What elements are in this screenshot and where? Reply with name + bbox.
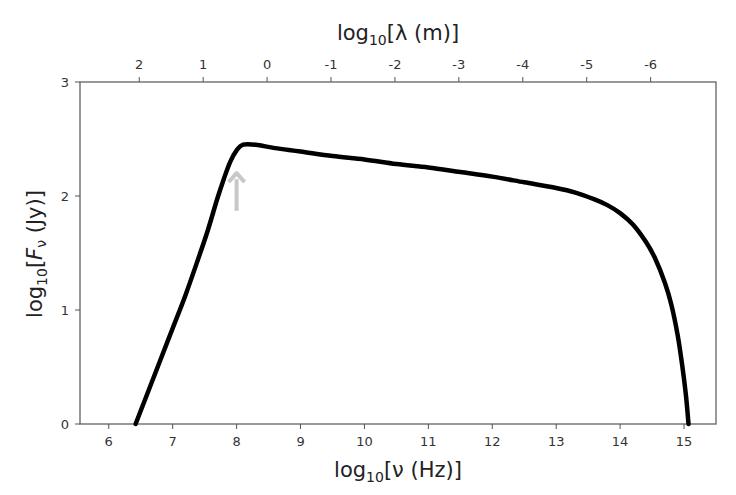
y-axis-left: 0123 [61, 75, 80, 432]
y-axis-title: log10[Fν (Jy)] [23, 190, 50, 318]
y-tick-label: 0 [61, 417, 69, 432]
x-tick-label: 15 [676, 434, 693, 449]
plot-border [80, 82, 716, 424]
top-tick-label: -6 [644, 57, 657, 72]
x-tick-label: 9 [296, 434, 304, 449]
x-tick-label: 6 [105, 434, 113, 449]
x-tick-label: 10 [356, 434, 373, 449]
top-tick-label: -4 [516, 57, 529, 72]
x-tick-label: 8 [232, 434, 240, 449]
x-axis-title: log10[ν (Hz)] [334, 458, 462, 485]
y-tick-label: 1 [61, 303, 69, 318]
top-tick-label: 1 [199, 57, 207, 72]
top-axis-title: log10[λ (m)] [337, 21, 459, 48]
arrow-icon [229, 173, 245, 211]
top-tick-label: -3 [452, 57, 465, 72]
chart: 6789101112131415 0123 210-1-2-3-4-5-6 lo… [0, 0, 736, 495]
y-tick-label: 2 [61, 189, 69, 204]
y-tick-label: 3 [61, 75, 69, 90]
top-tick-label: -5 [580, 57, 593, 72]
top-tick-label: 2 [135, 57, 143, 72]
x-tick-label: 12 [484, 434, 501, 449]
x-tick-label: 7 [169, 434, 177, 449]
top-tick-label: -2 [388, 57, 401, 72]
top-tick-label: 0 [263, 57, 271, 72]
x-tick-label: 14 [612, 434, 629, 449]
x-tick-label: 13 [548, 434, 565, 449]
x-tick-label: 11 [420, 434, 437, 449]
plot-area [80, 82, 716, 424]
x-axis-bottom: 6789101112131415 [105, 424, 693, 449]
x-axis-top: 210-1-2-3-4-5-6 [135, 57, 657, 82]
top-tick-label: -1 [325, 57, 338, 72]
sed-curve [136, 144, 689, 424]
